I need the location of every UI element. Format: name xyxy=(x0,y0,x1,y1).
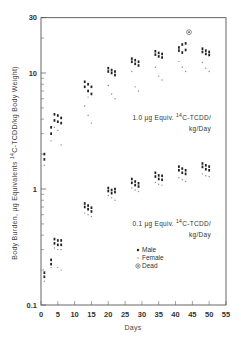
annotation-high-line1-post: C-TCDD/ xyxy=(182,114,211,121)
data-point-male xyxy=(91,206,93,209)
data-point-male xyxy=(107,187,109,190)
data-point-female xyxy=(91,216,92,217)
data-point-female xyxy=(202,62,203,63)
series xyxy=(44,173,210,282)
data-point-female xyxy=(114,98,115,99)
data-point-male xyxy=(57,239,59,242)
series xyxy=(187,30,192,35)
x-tick-label: 50 xyxy=(205,310,213,319)
legend-marker-male xyxy=(137,249,139,251)
data-point-male xyxy=(43,271,45,274)
data-point-female xyxy=(208,71,209,72)
data-point-dead-center xyxy=(188,31,190,33)
data-point-male xyxy=(60,244,62,247)
data-point-male xyxy=(205,164,207,167)
data-point-female xyxy=(91,122,92,123)
data-point-male xyxy=(158,178,160,181)
legend-label-male: Male xyxy=(142,246,156,253)
data-point-male xyxy=(205,53,207,56)
x-axis: 0510152025303540455055 xyxy=(39,301,230,319)
data-point-male xyxy=(185,173,187,176)
data-point-female xyxy=(60,269,61,270)
data-point-male xyxy=(154,175,156,178)
data-point-male xyxy=(111,189,113,192)
data-point-male xyxy=(202,166,204,169)
data-point-female xyxy=(87,214,88,215)
data-point-male xyxy=(43,276,45,279)
data-point-female xyxy=(57,267,58,268)
legend-marker-dead-center xyxy=(137,265,139,267)
data-point-male xyxy=(205,49,207,52)
data-point-female xyxy=(57,249,58,250)
data-point-male xyxy=(158,52,160,55)
data-point-female xyxy=(44,165,45,166)
x-tick-label: 35 xyxy=(155,310,163,319)
data-point-female xyxy=(131,187,132,188)
data-point-male xyxy=(178,49,180,52)
data-point-male xyxy=(138,185,140,188)
data-point-male xyxy=(134,180,136,183)
data-point-female xyxy=(131,71,132,72)
chart: 0.111030 0510152025303540455055 Days Bod… xyxy=(0,0,241,345)
annotation-high-line1-pre: 1.0 µg Equiv. xyxy=(132,114,176,122)
data-point-male xyxy=(158,174,160,177)
data-point-male xyxy=(134,59,136,62)
data-point-female xyxy=(205,67,206,68)
data-point-male xyxy=(134,63,136,66)
data-point-male xyxy=(87,208,89,211)
x-tick-label: 0 xyxy=(39,310,43,319)
svg-text:1.0 µg Equiv. 14C-TCDD/: 1.0 µg Equiv. 14C-TCDD/ xyxy=(132,112,211,122)
data-point-male xyxy=(114,74,116,77)
data-point-male xyxy=(178,46,180,49)
data-point-male xyxy=(138,60,140,63)
data-point-female xyxy=(50,140,51,141)
data-point-female xyxy=(158,183,159,184)
data-point-female xyxy=(161,79,162,80)
data-point-male xyxy=(154,50,156,53)
data-point-male xyxy=(57,244,59,247)
data-point-male xyxy=(208,51,210,54)
data-point-male xyxy=(131,182,133,185)
x-tick-label: 5 xyxy=(56,310,60,319)
y-axis: 0.111030 xyxy=(27,13,46,309)
data-point-male xyxy=(60,239,62,242)
data-point-male xyxy=(84,86,86,89)
y-tick-label: 10 xyxy=(29,69,37,78)
data-point-female xyxy=(108,85,109,86)
data-point-female xyxy=(44,281,45,282)
annotation-high-line2: kg/Day xyxy=(189,125,211,133)
data-point-male xyxy=(57,120,59,123)
data-point-male xyxy=(178,165,180,168)
series xyxy=(43,42,210,161)
data-point-male xyxy=(154,53,156,56)
data-point-female xyxy=(54,127,55,128)
data-point-male xyxy=(54,242,56,245)
data-point-female xyxy=(182,179,183,180)
data-point-male xyxy=(202,162,204,165)
data-point-male xyxy=(54,119,56,122)
data-point-female xyxy=(50,267,51,268)
data-point-male xyxy=(205,168,207,171)
data-point-male xyxy=(111,72,113,75)
data-point-male xyxy=(208,169,210,172)
data-point-female xyxy=(60,249,61,250)
data-point-male xyxy=(54,113,56,116)
data-point-male xyxy=(91,86,93,89)
annotation-low-line2: kg/Day xyxy=(189,231,211,239)
x-tick-label: 30 xyxy=(138,310,146,319)
legend: Male Female Dead xyxy=(136,246,164,269)
x-tick-label: 40 xyxy=(171,310,179,319)
x-tick-label: 20 xyxy=(104,310,112,319)
data-point-female xyxy=(87,96,88,97)
plot-frame xyxy=(41,18,226,305)
x-axis-label: Days xyxy=(124,324,141,332)
data-point-male xyxy=(107,67,109,70)
data-point-male xyxy=(178,169,180,172)
data-point-male xyxy=(50,259,52,262)
data-point-male xyxy=(57,114,59,117)
x-tick-label: 45 xyxy=(188,310,196,319)
data-point-female xyxy=(155,182,156,183)
data-point-male xyxy=(181,167,183,170)
data-point-male xyxy=(185,42,187,45)
data-point-male xyxy=(107,190,109,193)
